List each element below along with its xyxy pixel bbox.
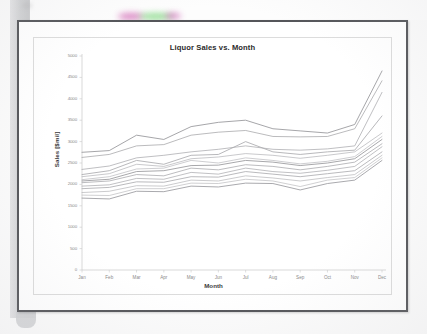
axis-lines (82, 54, 386, 270)
scan-shadow-foot (16, 312, 36, 328)
series-line (82, 160, 382, 199)
series-line (82, 152, 382, 189)
series-line (82, 92, 382, 169)
series-line (82, 133, 382, 177)
series-lines (82, 71, 382, 199)
plot-area: Sales [$mil] Month 050010001500200025003… (34, 38, 393, 296)
axis-tick-marks (80, 56, 383, 273)
scan-smudge (22, 3, 32, 8)
chart-card: Liquor Sales vs. Month Sales [$mil] Mont… (33, 37, 392, 295)
screenshot-root: Liquor Sales vs. Month Sales [$mil] Mont… (0, 0, 427, 334)
series-line (82, 116, 382, 175)
series-line (82, 81, 382, 158)
series-line (82, 71, 382, 152)
line-chart-svg (34, 38, 393, 296)
series-line (82, 147, 382, 186)
series-line (82, 136, 382, 179)
paper-top-margin (30, 0, 427, 20)
scan-color-artifact-magenta-2 (165, 13, 181, 19)
